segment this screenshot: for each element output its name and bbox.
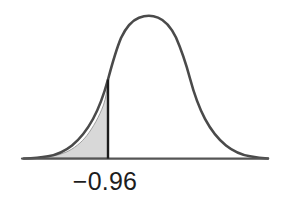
- chart-background: [0, 0, 289, 200]
- z-value-label: −0.96: [73, 167, 137, 195]
- normal-distribution-figure: −0.96: [0, 0, 289, 200]
- normal-curve-chart: −0.96: [0, 0, 289, 200]
